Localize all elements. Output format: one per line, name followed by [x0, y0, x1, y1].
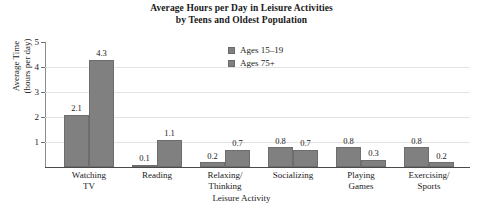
bar[interactable]	[404, 147, 429, 167]
y-axis-tick	[41, 92, 45, 93]
bar[interactable]	[64, 115, 89, 168]
bar[interactable]	[157, 140, 182, 168]
bar-value-label: 0.2	[198, 152, 228, 161]
y-axis-tick	[41, 42, 45, 43]
y-axis-title-line-2: (hours per day)	[22, 39, 33, 94]
bar-value-label: 2.1	[62, 104, 92, 113]
chart-title: Average Hours per Day in Leisure Activit…	[0, 3, 483, 26]
y-axis-title: Average Time (hours per day)	[11, 6, 33, 126]
leisure-activities-bar-chart: Average Hours per Day in Leisure Activit…	[0, 0, 483, 214]
legend-item-label: Ages 75+	[240, 59, 275, 68]
x-axis-category-label: Exercising/Sports	[386, 170, 472, 191]
legend-item[interactable]: Ages 75+	[228, 57, 283, 69]
bar[interactable]	[200, 162, 225, 167]
y-axis-tick	[41, 67, 45, 68]
chart-title-line-1: Average Hours per Day in Leisure Activit…	[0, 3, 483, 15]
bar-value-label: 0.8	[334, 137, 364, 146]
chart-title-line-2: by Teens and Oldest Population	[0, 15, 483, 27]
bar-group: 0.11.1	[132, 42, 182, 167]
bar-value-label: 0.8	[402, 137, 432, 146]
y-axis-title-line-1: Average Time	[11, 39, 22, 94]
x-axis-category-label-line: TV	[46, 181, 132, 192]
bar-group: 0.80.2	[404, 42, 454, 167]
bar-value-label: 0.3	[359, 149, 389, 158]
bar-value-label: 0.2	[427, 152, 457, 161]
bar[interactable]	[293, 150, 318, 168]
legend-item-label: Ages 15–19	[240, 46, 283, 55]
x-axis-line	[45, 167, 470, 168]
x-axis-category-label-line: Exercising/	[386, 170, 472, 181]
y-axis-tick-label: 1	[35, 138, 40, 147]
y-axis-tick	[41, 117, 45, 118]
y-axis-tick-label: 2	[35, 113, 40, 122]
chart-legend: Ages 15–19Ages 75+	[228, 44, 283, 70]
y-axis-tick-label: 3	[35, 88, 40, 97]
y-axis-tick-label: 5	[35, 38, 40, 47]
bar-value-label: 0.7	[223, 139, 253, 148]
y-axis-tick	[41, 142, 45, 143]
bar[interactable]	[132, 165, 157, 168]
bar-value-label: 4.3	[87, 49, 117, 58]
bar[interactable]	[361, 160, 386, 168]
y-axis-tick-label: 4	[35, 63, 40, 72]
bar-group: 0.80.3	[336, 42, 386, 167]
bar-value-label: 0.1	[130, 154, 160, 163]
bar-value-label: 1.1	[155, 129, 185, 138]
bar[interactable]	[89, 60, 114, 168]
x-axis-category-label-line: Thinking	[182, 181, 268, 192]
x-axis-category-label-line: Sports	[386, 181, 472, 192]
bar[interactable]	[268, 147, 293, 167]
x-axis-title: Leisure Activity	[0, 193, 483, 203]
bar-value-label: 0.7	[291, 139, 321, 148]
legend-item[interactable]: Ages 15–19	[228, 44, 283, 56]
legend-swatch-icon	[228, 60, 235, 67]
bar-group: 2.14.3	[64, 42, 114, 167]
bar[interactable]	[429, 162, 454, 167]
bar[interactable]	[225, 150, 250, 168]
bar[interactable]	[336, 147, 361, 167]
legend-swatch-icon	[228, 47, 235, 54]
